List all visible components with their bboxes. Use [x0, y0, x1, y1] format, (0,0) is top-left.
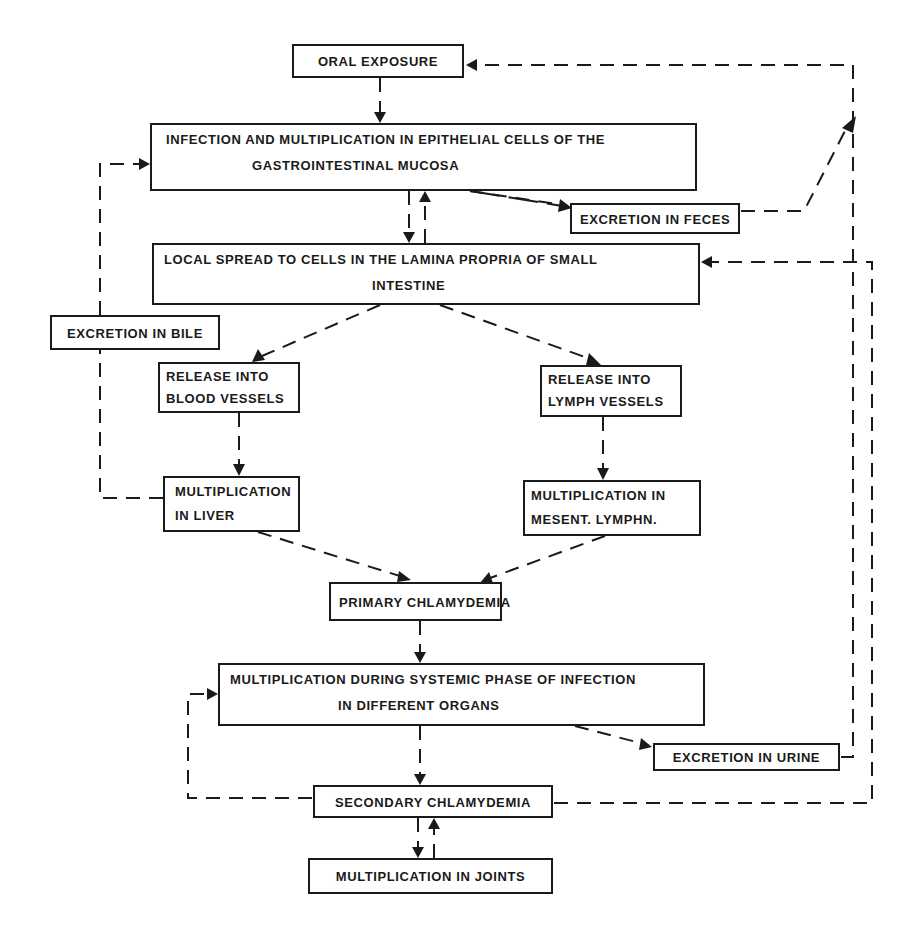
arrowhead-icon [374, 112, 386, 123]
node-label-line-2: LYMPH VESSELS [548, 391, 672, 413]
arrowhead-icon [466, 59, 477, 71]
edge-lamina-to-blood [252, 305, 380, 362]
edge-oral-to-infection [374, 78, 386, 123]
edge-primary-to-systemic [414, 621, 426, 663]
edge-liver-to-primary [258, 532, 411, 582]
node-multiplication-liver: MULTIPLICATION IN LIVER [163, 476, 300, 532]
edge-bile-to-infection [100, 158, 150, 315]
node-label: SECONDARY CHLAMYDEMIA [323, 789, 543, 816]
arrowhead-icon [419, 191, 431, 202]
node-label-line-1: RELEASE INTO [548, 369, 672, 391]
node-multiplication-mesent-lymphn: MULTIPLICATION IN MESENT. LYMPHN. [523, 480, 701, 536]
arrowhead-icon [397, 571, 411, 582]
node-label-line-2: BLOOD VESSELS [166, 388, 290, 410]
node-label-line-2: IN LIVER [175, 504, 290, 528]
node-primary-chlamydemia: PRIMARY CHLAMYDEMIA [329, 582, 502, 621]
node-label-line-2: GASTROINTESTINAL MUCOSA [166, 153, 687, 179]
edge-lamina-to-lymph [440, 305, 601, 365]
node-label-line-1: MULTIPLICATION [175, 480, 290, 504]
arrowhead-icon [597, 468, 609, 480]
arrowhead-icon [139, 158, 150, 170]
node-excretion-bile: EXCRETION IN BILE [50, 315, 220, 350]
edge-systemic-to-secondary [414, 726, 426, 785]
node-oral-exposure: ORAL EXPOSURE [292, 44, 464, 78]
arrowhead-icon [428, 818, 440, 829]
node-label: EXCRETION IN URINE [663, 747, 830, 769]
node-label: EXCRETION IN FECES [580, 207, 730, 232]
edge-joints-to-secondary [428, 818, 440, 858]
node-label: EXCRETION IN BILE [60, 319, 210, 348]
node-local-spread-lamina-propria: LOCAL SPREAD TO CELLS IN THE LAMINA PROP… [152, 243, 700, 305]
node-label: PRIMARY CHLAMYDEMIA [339, 586, 492, 619]
node-label-line-2: MESENT. LYMPHN. [531, 508, 691, 532]
edge-lamina-to-infection [419, 191, 431, 243]
arrowhead-icon [701, 256, 712, 268]
arrowhead-icon [412, 847, 424, 858]
arrowhead-icon [207, 688, 218, 700]
node-label-line-2: IN DIFFERENT ORGANS [230, 693, 695, 719]
node-infection-gi-mucosa: INFECTION AND MULTIPLICATION IN EPITHELI… [150, 123, 697, 191]
node-label-line-1: MULTIPLICATION DURING SYSTEMIC PHASE OF … [230, 667, 695, 693]
arrowhead-icon [233, 464, 245, 476]
node-secondary-chlamydemia: SECONDARY CHLAMYDEMIA [313, 785, 553, 818]
node-label-line-1: INFECTION AND MULTIPLICATION IN EPITHELI… [166, 127, 687, 153]
node-label-line-1: RELEASE INTO [166, 366, 290, 388]
edge-systemic-to-urine [575, 726, 652, 750]
arrowhead-icon [403, 232, 415, 243]
arrowhead-icon [639, 738, 652, 750]
node-multiplication-joints: MULTIPLICATION IN JOINTS [308, 858, 553, 894]
arrowhead-icon [586, 353, 601, 365]
edge-secondary-to-joints [412, 818, 424, 858]
node-label-line-1: MULTIPLICATION IN [531, 484, 691, 508]
node-label-line-1: LOCAL SPREAD TO CELLS IN THE LAMINA PROP… [164, 247, 690, 273]
node-excretion-feces: EXCRETION IN FECES [570, 203, 740, 234]
node-excretion-urine: EXCRETION IN URINE [653, 743, 840, 771]
node-systemic-multiplication: MULTIPLICATION DURING SYSTEMIC PHASE OF … [218, 663, 705, 726]
node-label: MULTIPLICATION IN JOINTS [318, 862, 543, 892]
edge-feces-to-oral [741, 116, 856, 211]
edge-infection-to-lamina [403, 191, 415, 243]
edge-blood-to-liver [233, 413, 245, 476]
node-release-lymph-vessels: RELEASE INTO LYMPH VESSELS [540, 365, 682, 417]
arrowhead-icon [414, 652, 426, 663]
edge-lymph-to-lymphn [597, 417, 609, 480]
edge-liver-to-bile [100, 350, 163, 498]
node-label: ORAL EXPOSURE [302, 48, 454, 76]
node-label-line-2: INTESTINE [164, 273, 690, 299]
arrowhead-icon [414, 774, 426, 785]
edge-infection-to-feces [470, 191, 572, 212]
edge-lymphn-to-primary [480, 536, 605, 583]
flowchart-canvas: ORAL EXPOSURE INFECTION AND MULTIPLICATI… [0, 0, 916, 935]
node-release-blood-vessels: RELEASE INTO BLOOD VESSELS [158, 362, 300, 413]
